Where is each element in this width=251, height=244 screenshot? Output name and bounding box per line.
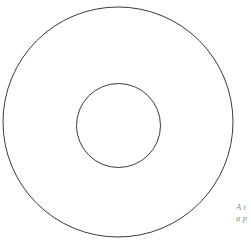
figure-caption: A t a p (236, 202, 251, 223)
figure-canvas: A t a p (0, 0, 251, 244)
concentric-circles-drawing (0, 0, 251, 244)
caption-line-2: a p (236, 213, 251, 224)
canvas-background (0, 0, 251, 244)
caption-line-1: A t (236, 202, 251, 213)
